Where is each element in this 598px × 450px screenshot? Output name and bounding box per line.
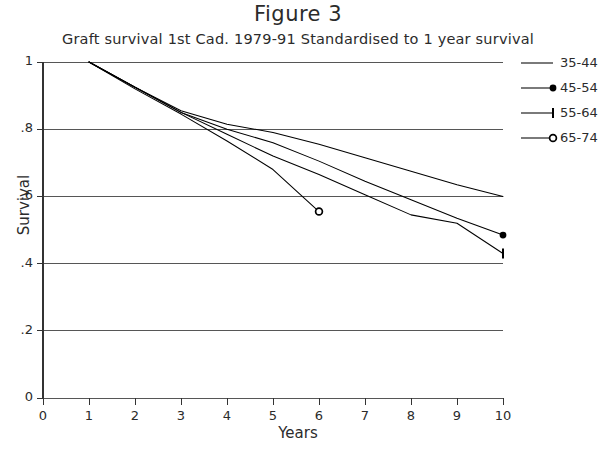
series-line-55-64 — [89, 62, 503, 254]
legend-marker-45-54 — [550, 85, 557, 92]
series-line-65-74 — [89, 62, 319, 212]
legend-marker-65-74 — [550, 135, 557, 142]
data-series — [89, 62, 506, 259]
series-endpoint-45-54 — [500, 232, 507, 239]
series-line-45-54 — [89, 62, 503, 235]
axis-ticks — [37, 62, 503, 405]
gridlines — [43, 62, 503, 398]
legend-line-samples — [521, 63, 556, 141]
series-endpoint-65-74 — [316, 208, 323, 215]
